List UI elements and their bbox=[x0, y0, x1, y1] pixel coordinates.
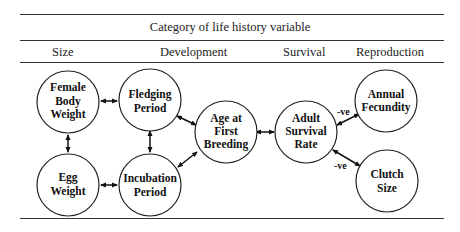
edge-label-clutch: -ve bbox=[334, 160, 347, 171]
node-egg-weight: Egg Weight bbox=[37, 154, 99, 216]
node-adult-survival-rate: Adult Survival Rate bbox=[275, 101, 337, 163]
node-fledging-period: Fledging Period bbox=[119, 69, 181, 131]
svg-text:Egg: Egg bbox=[58, 171, 77, 184]
svg-text:Breeding: Breeding bbox=[204, 138, 249, 151]
svg-text:Period: Period bbox=[134, 186, 167, 198]
diagram-canvas: -ve -ve Female Body Weight Egg Weight Fl… bbox=[0, 0, 460, 232]
node-annual-fecundity: Annual Fecundity bbox=[355, 70, 417, 132]
svg-text:Annual: Annual bbox=[368, 88, 404, 100]
svg-text:Fecundity: Fecundity bbox=[361, 101, 410, 114]
svg-text:Rate: Rate bbox=[295, 138, 318, 150]
edge-incubation-age bbox=[178, 152, 197, 167]
node-age-first-breeding: Age at First Breeding bbox=[195, 101, 257, 163]
svg-text:Age at: Age at bbox=[210, 112, 242, 125]
svg-text:Weight: Weight bbox=[50, 108, 85, 121]
svg-text:Incubation: Incubation bbox=[123, 172, 177, 184]
svg-text:Fledging: Fledging bbox=[129, 88, 172, 101]
svg-text:Survival: Survival bbox=[285, 125, 327, 137]
node-clutch-size: Clutch Size bbox=[356, 150, 418, 212]
svg-text:First: First bbox=[214, 125, 238, 137]
edge-fledging-age bbox=[177, 116, 196, 125]
node-female-body-weight: Female Body Weight bbox=[37, 71, 99, 133]
node-incubation-period: Incubation Period bbox=[119, 154, 181, 216]
svg-text:Body: Body bbox=[55, 95, 81, 108]
svg-text:Size: Size bbox=[377, 182, 397, 194]
svg-text:Female: Female bbox=[50, 81, 86, 93]
svg-text:Adult: Adult bbox=[292, 112, 320, 124]
edge-label-fecundity: -ve bbox=[337, 106, 350, 117]
svg-text:Period: Period bbox=[134, 102, 167, 114]
svg-text:Clutch: Clutch bbox=[370, 168, 404, 180]
svg-text:Weight: Weight bbox=[50, 185, 85, 198]
